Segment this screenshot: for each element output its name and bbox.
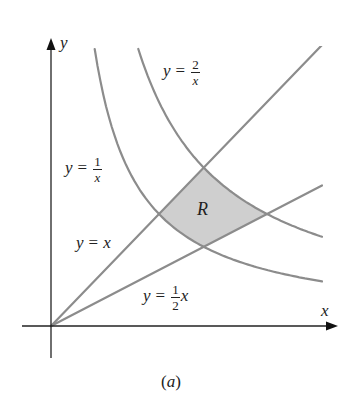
label-equals: = xyxy=(156,286,166,305)
fraction: 12 xyxy=(171,283,180,312)
denominator: x xyxy=(193,73,199,87)
y-axis-label: y xyxy=(60,34,68,51)
label-y-equals-half-x: y=12x xyxy=(143,283,188,312)
fraction: 1x xyxy=(93,155,102,184)
label-lhs: y xyxy=(163,61,171,80)
label-rhs: x xyxy=(181,286,189,305)
x-axis-arrow-icon xyxy=(326,322,338,331)
fraction: 2x xyxy=(191,58,200,87)
region-r-shaded xyxy=(159,168,267,247)
label-lhs: y xyxy=(143,286,151,305)
label-lhs: y xyxy=(76,233,84,252)
numerator: 1 xyxy=(171,283,180,298)
label-y-equals-1-over-x: y=1x xyxy=(65,155,103,184)
numerator: 1 xyxy=(93,155,102,170)
y-axis-arrow-icon xyxy=(47,38,56,50)
label-equals: = xyxy=(176,61,186,80)
label-rhs: x xyxy=(103,233,111,252)
figure-caption: (a) xyxy=(161,373,181,390)
region-r-label: R xyxy=(197,200,208,218)
caption-text: (a) xyxy=(161,372,181,391)
denominator: 2 xyxy=(172,298,179,312)
denominator: x xyxy=(95,170,101,184)
label-y-equals-2-over-x: y=2x xyxy=(163,58,201,87)
label-y-equals-x: y=x xyxy=(76,234,111,251)
label-lhs: y xyxy=(65,158,73,177)
label-equals: = xyxy=(89,233,99,252)
x-axis-label: x xyxy=(321,302,329,319)
label-equals: = xyxy=(78,158,88,177)
numerator: 2 xyxy=(191,58,200,73)
